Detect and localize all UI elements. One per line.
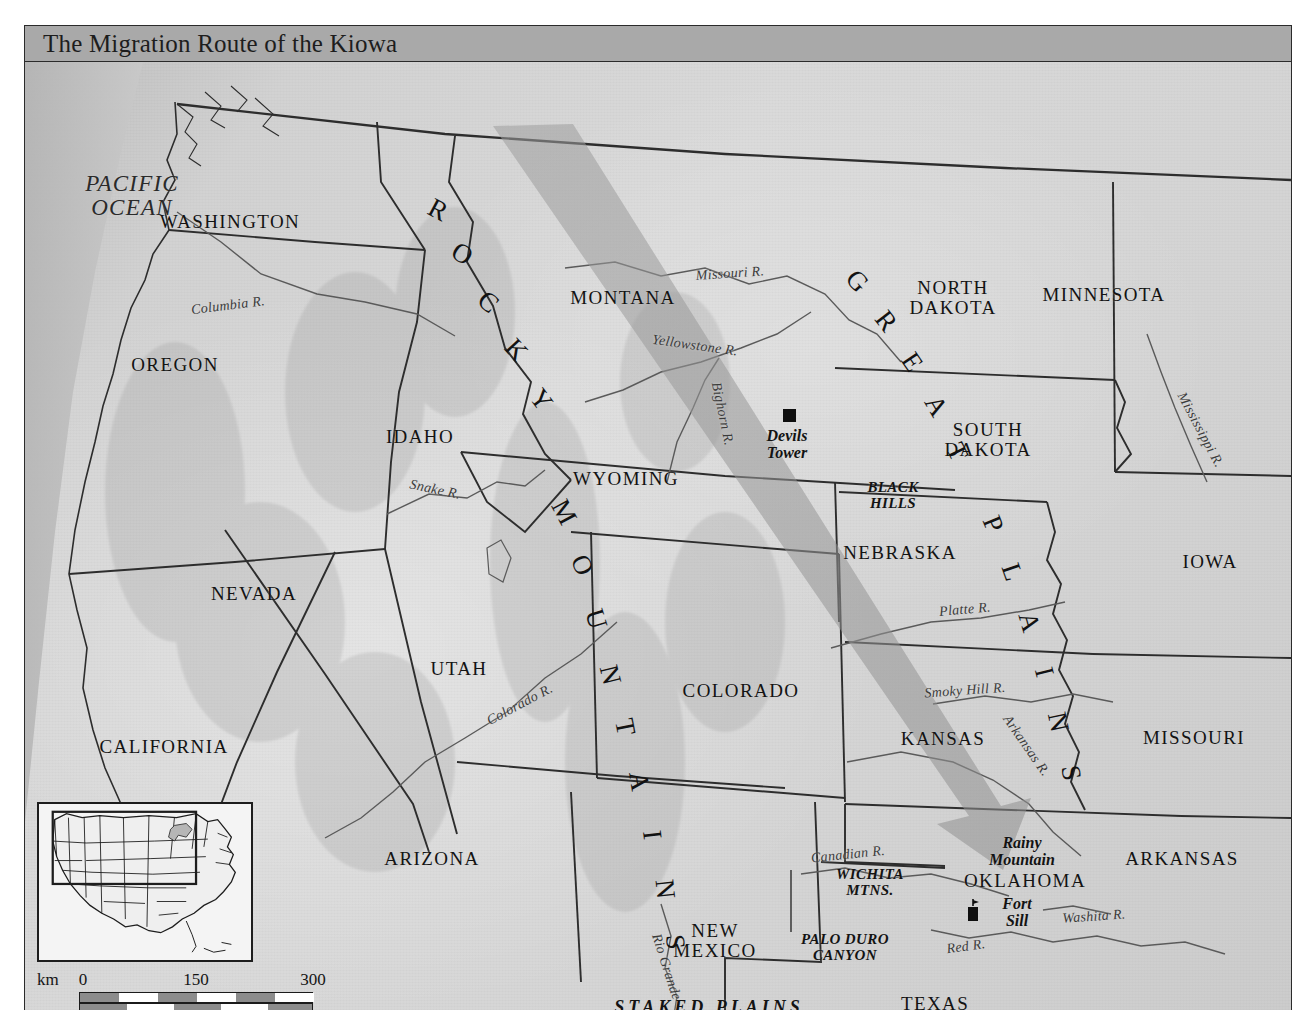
- rocky-char-13: S: [659, 933, 691, 951]
- scale-km-row: km 0 150 300: [37, 970, 337, 988]
- inset-us-outline: [39, 804, 251, 960]
- label-state-colorado: COLORADO: [683, 681, 800, 701]
- label-state-north-dakota: NORTHDAKOTA: [909, 278, 996, 318]
- label-state-kansas: KANSAS: [901, 729, 985, 749]
- label-state-oklahoma: OKLAHOMA: [964, 871, 1086, 891]
- map-plate: The Migration Route of the Kiowa: [24, 25, 1292, 1010]
- label-site-devils-tower: DevilsTower: [767, 428, 808, 462]
- label-state-iowa: IOWA: [1182, 552, 1237, 572]
- map-page: The Migration Route of the Kiowa: [0, 0, 1316, 1029]
- scale-bar-km: [79, 992, 313, 1003]
- label-state-arkansas: ARKANSAS: [1125, 849, 1239, 869]
- palo-duro-leader-line: [785, 868, 825, 938]
- label-region-staked-plains: STAKED PLAINS: [614, 998, 804, 1010]
- title-banner: The Migration Route of the Kiowa: [25, 26, 1291, 62]
- map-canvas[interactable]: PACIFICOCEAN WASHINGTON OREGON IDAHO MON…: [25, 62, 1291, 1010]
- label-state-wyoming: WYOMING: [573, 469, 679, 489]
- scale-km-tick-300: 300: [300, 970, 326, 990]
- scale-unit-km: km: [37, 970, 59, 990]
- label-site-rainy-mountain: RainyMountain: [989, 835, 1055, 869]
- river-state-borders: [1047, 380, 1131, 810]
- label-state-idaho: IDAHO: [386, 427, 454, 447]
- scale-km-tick-0: 0: [79, 970, 88, 990]
- canada-border: [177, 104, 1291, 180]
- label-state-nevada: NEVADA: [211, 584, 297, 604]
- scale-bar-mi: [79, 1003, 313, 1010]
- label-state-washington: WASHINGTON: [160, 212, 300, 232]
- label-state-missouri: MISSOURI: [1143, 728, 1245, 748]
- fort-marker: [965, 898, 983, 924]
- label-feature-black-hills: BLACKHILLS: [867, 480, 918, 512]
- label-state-arizona: ARIZONA: [384, 849, 479, 869]
- label-site-fort-sill: FortSill: [1002, 896, 1031, 930]
- scale-km-ticks: 0 150 300: [79, 970, 313, 988]
- square-marker: [783, 409, 796, 422]
- label-state-california: CALIFORNIA: [99, 737, 228, 757]
- rocky-char-12: N: [649, 878, 682, 901]
- rocky-char-10: A: [622, 769, 656, 793]
- label-state-texas: TEXAS: [901, 994, 969, 1010]
- label-state-minnesota: MINNESOTA: [1043, 285, 1166, 305]
- page-title: The Migration Route of the Kiowa: [43, 30, 397, 58]
- label-state-nebraska: NEBRASKA: [843, 543, 957, 563]
- label-state-montana: MONTANA: [570, 288, 675, 308]
- scale-bar: km 0 150 300: [37, 970, 337, 1010]
- locator-inset-map[interactable]: [37, 802, 253, 962]
- label-feature-wichita-mtns: WICHITAMTNS.: [836, 867, 904, 899]
- label-state-oregon: OREGON: [131, 355, 219, 375]
- label-state-utah: UTAH: [431, 659, 488, 679]
- scale-km-tick-150: 150: [183, 970, 209, 990]
- puget-sound-detail: [177, 86, 279, 166]
